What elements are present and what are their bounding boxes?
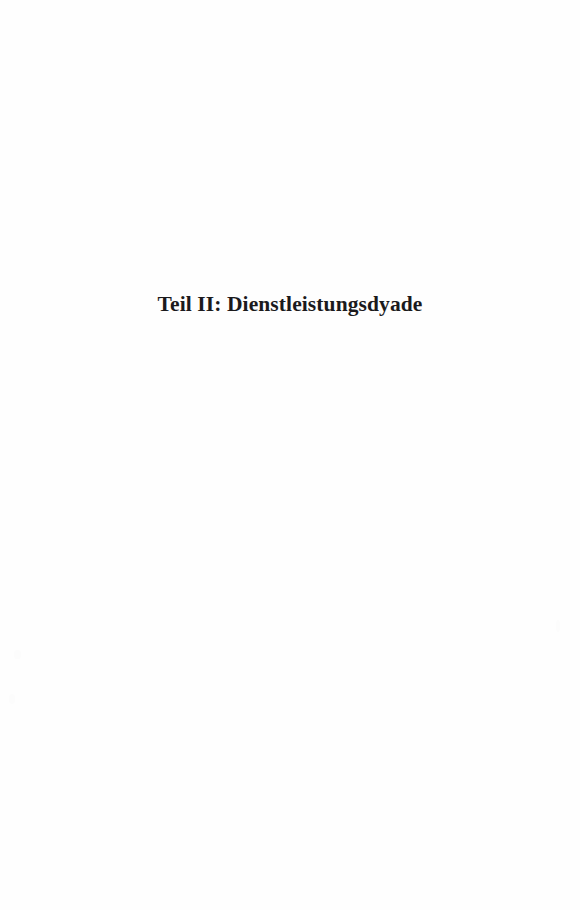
document-page: Teil II: Dienstleistungsdyade (0, 0, 580, 910)
scan-artifact-speck (9, 694, 15, 704)
page-title: Teil II: Dienstleistungsdyade (158, 291, 423, 317)
part-title-block: Teil II: Dienstleistungsdyade (0, 291, 580, 317)
scan-artifact-speck (14, 650, 21, 659)
scan-artifact-speck (556, 620, 560, 632)
